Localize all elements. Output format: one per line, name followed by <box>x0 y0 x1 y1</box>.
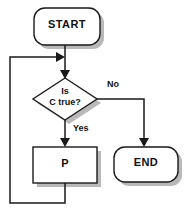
start-node-label: START <box>34 19 100 31</box>
edge-decision-to-end-arrowhead <box>139 138 149 147</box>
edge-decision-to-process-arrowhead <box>60 138 70 147</box>
decision-node-label-line2: C true? <box>49 97 81 107</box>
process-node-label: P <box>33 158 97 170</box>
decision-node-label-line1: Is <box>61 86 69 96</box>
edge-decision-to-end <box>97 99 144 142</box>
decision-node-label: Is C true? <box>33 86 97 109</box>
end-node-label: END <box>114 157 178 169</box>
edge-process-loop-back-arrowhead <box>56 52 65 62</box>
edge-label-no: No <box>107 79 119 89</box>
edge-label-yes: Yes <box>73 123 89 133</box>
flowchart-diagram: START Is C true? P END No Yes <box>0 0 190 215</box>
